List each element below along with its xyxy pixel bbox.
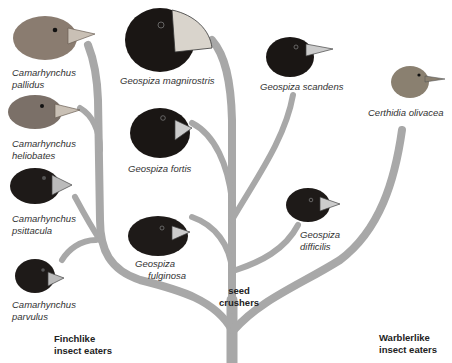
bird-head-magnirostris [125, 8, 212, 72]
label-certhidia-olivacea: Certhidia olivacea [368, 107, 444, 119]
label-line: fulginosa [135, 270, 186, 282]
branch-scandens [232, 95, 293, 220]
label-line: Geospiza [300, 229, 340, 241]
label-line: Geospiza magnirostris [120, 75, 215, 87]
label-geospiza-scandens: Geospiza scandens [260, 81, 343, 93]
label-camarhynchus-parvulus: Camarhynchus parvulus [12, 299, 76, 322]
label-line: heliobates [12, 150, 76, 162]
label-line: Camarhynchus [12, 138, 76, 150]
label-line: Certhidia olivacea [368, 107, 444, 119]
label-line: Geospiza [135, 258, 186, 270]
group-line: insect eaters [379, 344, 437, 356]
label-camarhynchus-pallidus: Camarhynchus pallidus [12, 67, 76, 90]
label-camarhynchus-heliobates: Camarhynchus heliobates [12, 138, 76, 161]
label-geospiza-fortis: Geospiza fortis [128, 163, 191, 175]
branch-parvulus [62, 240, 96, 260]
label-line: parvulus [12, 311, 76, 323]
bird-head-parvulus [15, 259, 64, 293]
bird-head-heliobates [8, 95, 80, 129]
label-line: Geospiza fortis [128, 163, 191, 175]
branch-fulginosa [192, 217, 232, 270]
bird-head-scandens [266, 37, 333, 77]
group-finchlike-insect-eaters: Finchlike insect eaters [54, 333, 112, 356]
label-line: Camarhynchus [12, 299, 76, 311]
group-line: crushers [219, 297, 259, 309]
label-line: psittacula [12, 225, 76, 237]
label-geospiza-fulginosa: Geospiza fulginosa [135, 258, 186, 281]
label-line: Camarhynchus [12, 213, 76, 225]
label-geospiza-magnirostris: Geospiza magnirostris [120, 75, 215, 87]
label-line: difficilis [300, 241, 340, 253]
label-line: Geospiza scandens [260, 81, 343, 93]
bird-head-fortis [130, 108, 192, 158]
branch-finchlike [88, 45, 232, 330]
branch-fortis [192, 123, 232, 200]
label-geospiza-difficilis: Geospiza difficilis [300, 229, 340, 252]
bird-head-pallidus [13, 16, 95, 60]
tree-branches [62, 40, 402, 363]
group-line: Finchlike [54, 333, 112, 345]
label-camarhynchus-psittacula: Camarhynchus psittacula [12, 213, 76, 236]
group-line: seed [219, 285, 259, 297]
bird-head-difficilis [286, 188, 340, 222]
group-line: Warblerlike [379, 332, 437, 344]
bird-head-olivacea [391, 66, 445, 98]
label-line: Camarhynchus [12, 67, 76, 79]
bird-head-psittacula [10, 168, 72, 204]
group-seed-crushers: seed crushers [219, 285, 259, 308]
bird-head-fulginosa [128, 216, 190, 256]
group-line: insect eaters [54, 345, 112, 357]
label-line: pallidus [12, 79, 76, 91]
group-warblerlike-insect-eaters: Warblerlike insect eaters [379, 332, 437, 355]
branch-difficilis [236, 225, 298, 270]
